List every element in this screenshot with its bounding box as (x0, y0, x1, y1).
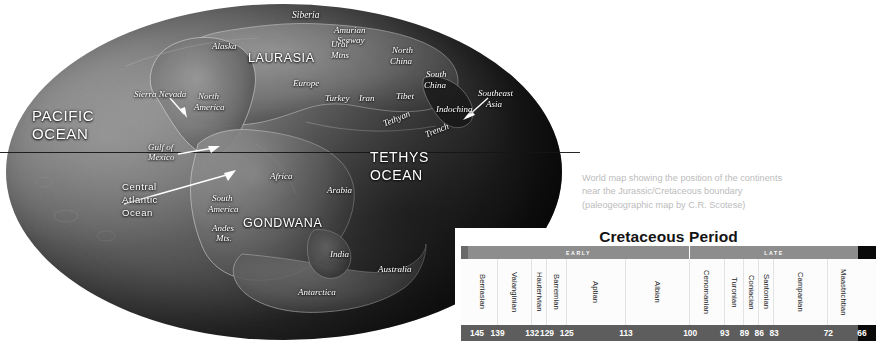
timescale-chart: EARLYLATE BerriasianValanginianHauterivi… (461, 246, 876, 346)
epoch-early[interactable]: EARLY (468, 246, 690, 259)
epoch-late[interactable]: LATE (690, 246, 858, 259)
stage-barremian[interactable]: Barremian (547, 259, 567, 325)
age-boundary-139: 139 (484, 325, 512, 341)
caption-line-1: World map showing the position of the co… (582, 172, 814, 185)
timescale-title: Cretaceous Period (455, 228, 882, 246)
cretaceous-timescale-panel: Cretaceous Period EARLYLATE BerriasianVa… (455, 228, 882, 355)
age-boundary-125: 125 (553, 325, 581, 341)
stage-cenomanian[interactable]: Cenomanian (690, 259, 725, 325)
stage-label: Valanginian (510, 272, 519, 312)
equator-line (0, 152, 580, 153)
stage-label: Cenomanian (702, 270, 711, 314)
age-boundary-83: 83 (760, 325, 788, 341)
stage-label: Barremian (552, 274, 561, 310)
stage-columns-row: BerriasianValanginianHauterivianBarremia… (461, 259, 876, 325)
caption-line-3: (paleogeographic map by C.R. Scotese) (582, 199, 814, 212)
stage-maastrichtian[interactable]: Maastrichtian (828, 259, 858, 325)
stage-albian[interactable]: Albian (626, 259, 690, 325)
stage-santonian[interactable]: Santonian (759, 259, 774, 325)
stage-label: Albian (653, 281, 662, 303)
stage-leading-gutter (461, 259, 468, 325)
stage-label: Santonian (762, 274, 771, 309)
stage-trailing-gutter (858, 259, 876, 325)
map-caption: World map showing the position of the co… (582, 172, 814, 212)
epoch-label: EARLY (566, 250, 591, 256)
stage-aptian[interactable]: Aptian (567, 259, 626, 325)
age-axis-row: 145139132129125113100938986837266 (461, 325, 876, 341)
epoch-band-row: EARLYLATE (461, 246, 876, 259)
stage-berriasian[interactable]: Berriasian (468, 259, 498, 325)
epoch-band-start-cap (461, 246, 468, 259)
stage-campanian[interactable]: Campanian (774, 259, 828, 325)
stage-label: Berriasian (478, 274, 487, 309)
stage-label: Campanian (796, 272, 805, 312)
age-boundary-66: 66 (850, 325, 874, 341)
stage-turonian[interactable]: Turonian (725, 259, 745, 325)
epoch-band-end-marker (858, 246, 876, 259)
stage-label: Hauterivian (535, 272, 544, 312)
stage-label: Turonian (730, 277, 739, 308)
epoch-label: LATE (764, 250, 784, 256)
stage-coniacian[interactable]: Coniacian (744, 259, 759, 325)
stage-valanginian[interactable]: Valanginian (498, 259, 533, 325)
stage-label: Coniacian (747, 275, 756, 310)
stage-hauterivian[interactable]: Hauterivian (532, 259, 547, 325)
age-boundary-72: 72 (814, 325, 842, 341)
stage-label: Aptian (591, 281, 600, 303)
age-boundary-100: 100 (676, 325, 704, 341)
caption-line-2: near the Jurassic/Cretaceous boundary (582, 185, 814, 198)
stage-label: Maastrichtian (839, 269, 848, 315)
age-boundary-113: 113 (612, 325, 640, 341)
